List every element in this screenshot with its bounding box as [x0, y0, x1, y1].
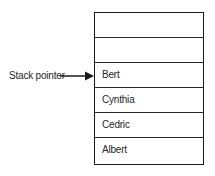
stack-cell-cynthia: Cynthia — [95, 88, 203, 113]
stack-cell-albert: Albert — [95, 138, 203, 163]
stack-pointer-arrow-icon — [60, 70, 94, 82]
stack-cell-cedric: Cedric — [95, 113, 203, 138]
stack-cell-empty-2 — [95, 38, 203, 63]
stack-cell-bert: Bert — [95, 63, 203, 88]
stack-diagram: Stack pointer Bert Cynthia Cedric Albert — [0, 0, 215, 176]
stack-pointer-label: Stack pointer — [9, 70, 65, 82]
stack-box: Bert Cynthia Cedric Albert — [94, 12, 204, 165]
stack-cell-empty-1 — [95, 13, 203, 38]
